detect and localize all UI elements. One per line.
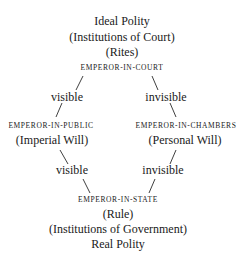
personal-will-label: (Personal Will) [149,134,222,146]
edge-invisible-to-state [149,179,155,193]
rule-label: (Rule) [103,208,134,220]
upper-right-invisible-label: invisible [145,91,186,103]
emperor-in-court-node: EMPEROR-IN-COURT [81,64,164,72]
edge-public-to-visible [60,150,68,164]
edge-visible-to-state [83,179,90,193]
edge-court-to-visible [76,76,83,90]
institutions-of-court-label: (Institutions of Court) [69,31,174,43]
rites-label: (Rites) [106,46,139,58]
ideal-polity-label: Ideal Polity [94,15,150,27]
emperor-in-state-node: EMPEROR-IN-STATE [78,196,158,204]
emperor-in-public-node: EMPEROR-IN-PUBLIC [8,122,93,130]
upper-left-visible-label: visible [51,91,83,103]
lower-right-invisible-label: invisible [142,164,183,176]
real-polity-label: Real Polity [91,238,145,250]
edge-visible-to-public [56,103,62,117]
institutions-of-government-label: (Institutions of Government) [49,223,187,235]
edge-chambers-to-invisible [170,150,176,164]
lower-left-visible-label: visible [56,164,88,176]
emperor-in-chambers-node: EMPEROR-IN-CHAMBERS [136,122,237,130]
edge-court-to-invisible [152,76,158,90]
imperial-will-label: (Imperial Will) [16,134,88,146]
edge-invisible-to-chambers [170,103,176,117]
